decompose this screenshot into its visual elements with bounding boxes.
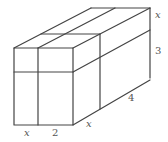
label-depth-back: 4 <box>128 92 134 103</box>
top-face <box>14 8 150 48</box>
label-front-width-right: 2 <box>52 127 58 138</box>
label-front-width-left: x <box>24 127 30 138</box>
label-height-bottom: 3 <box>155 45 161 56</box>
box-diagram: x 2 x 4 x 3 <box>0 0 168 142</box>
front-face <box>14 48 73 125</box>
label-height-top: x <box>155 9 161 20</box>
right-face <box>73 8 150 125</box>
label-depth-front: x <box>86 118 92 129</box>
